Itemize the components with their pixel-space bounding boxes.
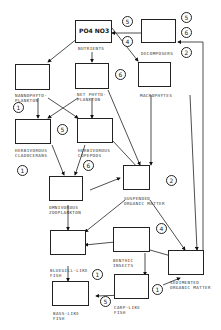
herbivorous-cladocerans-label: HERBIVOROUS CLADOCERANS xyxy=(15,148,47,158)
omnivorous-zooplankton-label: OMNIVOROUS ZOOPLANKTON xyxy=(49,205,81,215)
sedimented-organic-matter-label: SEDIMENTED ORGANIC MATTER xyxy=(170,280,211,290)
marker-2-suspended: 2 xyxy=(166,175,177,186)
marker-1-cladocerans: 1 xyxy=(17,165,28,176)
carp-like-fish-label: CARP-LIKE FISH xyxy=(114,305,140,315)
marker-5-bass: 5 xyxy=(100,296,111,307)
suspended-organic-matter-box xyxy=(123,165,150,190)
marker-5-right: 5 xyxy=(181,12,192,23)
nannophytoplankton-box xyxy=(15,64,50,90)
net-phytoplankton-box xyxy=(75,63,109,89)
marker-5-cladocerans: 5 xyxy=(57,124,68,135)
net-phytoplankton-label: NET PHYTO- PLANKTON xyxy=(77,92,106,102)
bass-like-fish-label: BASS-LIKE FISH xyxy=(53,311,79,321)
marker-1-carp: 1 xyxy=(152,284,163,295)
sedimented-organic-matter-box xyxy=(168,250,204,275)
omnivorous-zooplankton-box xyxy=(49,176,83,201)
marker-6-netphyto: 6 xyxy=(115,69,126,80)
nutrients-box: PO4 NO3 xyxy=(75,20,112,43)
bass-like-fish-box xyxy=(52,281,89,306)
marker-1-nanno: 1 xyxy=(13,102,24,113)
marker-6-omnivorous: 6 xyxy=(83,160,94,171)
nutrients-label: NUTRIENTS xyxy=(78,46,104,51)
marker-1-bass: 1 xyxy=(92,269,103,280)
marker-2-decomposers: 2 xyxy=(181,47,192,58)
suspended-organic-matter-label: SUSPENDED ORGANIC MATTER xyxy=(124,196,165,206)
nutrients-chem: PO4 NO3 xyxy=(79,27,109,34)
herbivorous-copepods-box xyxy=(77,118,113,143)
marker-4-benthic: 4 xyxy=(156,223,167,234)
herbivorous-cladocerans-box xyxy=(15,119,51,144)
macrophytes-label: MACROPHYTES xyxy=(140,93,172,98)
benthic-insects-label: BENTHIC INSECTS xyxy=(113,258,133,268)
benthic-insects-box xyxy=(113,227,150,252)
marker-5-top: 5 xyxy=(122,16,133,27)
decomposers-box xyxy=(141,19,176,43)
bluegill-like-fish-box xyxy=(50,230,86,255)
herbivorous-copepods-label: HERBIVOROUS COPEPODS xyxy=(78,148,110,158)
carp-like-fish-box xyxy=(114,274,149,299)
macrophytes-box xyxy=(138,62,171,87)
decomposers-label: DECOMPOSERS xyxy=(141,51,173,56)
bluegill-like-fish-label: BLUEGILL-LIKE FISH xyxy=(50,268,88,278)
marker-6-right: 6 xyxy=(181,27,192,38)
marker-4-top: 4 xyxy=(122,36,133,47)
